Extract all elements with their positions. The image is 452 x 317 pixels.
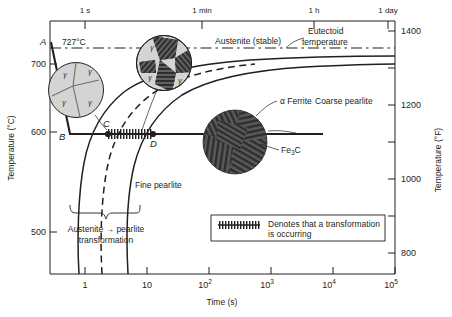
y-tick-600: 600 [31, 127, 46, 137]
brace-caption-line1: Austenite → pearlite [68, 224, 145, 234]
right-axis-labels: 1400 1200 1000 800 [401, 26, 421, 258]
austenite-stable-label: Austenite (stable) [215, 36, 281, 46]
bottom-axis-ticks [85, 267, 395, 274]
gamma-label-4: γ [88, 99, 92, 107]
top-tick-1h: 1 h [308, 6, 319, 15]
coarse-pearlite-label: Coarse pearlite [315, 96, 373, 106]
eutectoid-temperature-callout: Eutectoid temperature [286, 26, 348, 48]
top-tick-1day: 1 day [378, 6, 398, 15]
x-tick-1000: 103 [260, 278, 274, 290]
yf-tick-1400: 1400 [401, 26, 421, 36]
y-tick-500: 500 [31, 227, 46, 237]
label-point-c: C [103, 118, 110, 129]
eutectoid-temp-label-line2: temperature [302, 37, 348, 47]
label-point-d: D [150, 138, 157, 149]
gamma-label-6: γ [148, 74, 152, 82]
micrograph-austenite-grains: γ γ γ γ [49, 63, 108, 131]
yf-tick-1000: 1000 [401, 174, 421, 184]
top-tick-1s: 1 s [80, 6, 91, 15]
austenite-to-pearlite-brace [70, 205, 140, 219]
x-tick-1: 1 [82, 280, 87, 290]
x-tick-100: 102 [198, 278, 212, 290]
transformation-occurring-band [108, 129, 153, 139]
brace-caption-line2: transformation [79, 235, 134, 245]
marker-point-d [150, 131, 156, 137]
alpha-ferrite-leader [256, 101, 277, 116]
top-axis-labels: 1 s 1 min 1 h 1 day [80, 6, 398, 15]
fe3c-label: Fe3C [281, 145, 301, 156]
top-tick-1min: 1 min [192, 6, 212, 15]
ttt-diagram-svg: 1 s 1 min 1 h 1 day 1 10 102 103 104 105… [0, 0, 452, 317]
gamma-label-5: γ [150, 44, 154, 52]
label-point-a: A [39, 36, 46, 47]
legend-box: Denotes that a transformation is occurri… [211, 215, 385, 241]
gamma-label-1: γ [63, 71, 67, 79]
bottom-axis-labels: 1 10 102 103 104 105 [82, 278, 398, 290]
ttt-diagram-figure: 1 s 1 min 1 h 1 day 1 10 102 103 104 105… [0, 0, 452, 317]
alpha-ferrite-callout: α Ferrite [256, 96, 312, 116]
y-axis-label-fahrenheit: Temperature (°F) [433, 128, 443, 193]
eutectoid-temp-label-line1: Eutectoid [308, 26, 344, 36]
legend-text-line1: Denotes that a transformation [268, 219, 380, 229]
marker-point-c [105, 131, 111, 137]
left-axis-labels: 700 600 500 [31, 59, 46, 237]
label-point-b: B [59, 131, 66, 142]
x-tick-100000: 105 [384, 278, 398, 290]
legend-text-line2: is occurring [268, 229, 312, 239]
fine-pearlite-label: Fine pearlite [135, 180, 182, 190]
nucleation-micrograph-leader [142, 90, 157, 130]
yf-tick-800: 800 [401, 248, 416, 258]
yf-tick-1200: 1200 [401, 100, 421, 110]
gamma-label-3: γ [62, 99, 66, 107]
y-axis-label-celsius: Temperature (°C) [6, 115, 16, 180]
micrograph-pearlite-nucleation: γ γ γ [137, 34, 194, 130]
gamma-label-2: γ [88, 68, 92, 76]
x-tick-10000: 104 [322, 278, 336, 290]
alpha-ferrite-label: α Ferrite [280, 96, 312, 106]
x-tick-10: 10 [142, 280, 152, 290]
micrograph-coarse-pearlite [203, 110, 267, 174]
y-tick-700: 700 [31, 59, 46, 69]
x-axis-label: Time (s) [207, 297, 238, 307]
eutectoid-temp-value-label: 727°C [62, 37, 86, 47]
gamma-label-7: γ [178, 77, 182, 85]
legend-swatch [218, 221, 260, 229]
pearlite-curve-leader [268, 131, 296, 133]
